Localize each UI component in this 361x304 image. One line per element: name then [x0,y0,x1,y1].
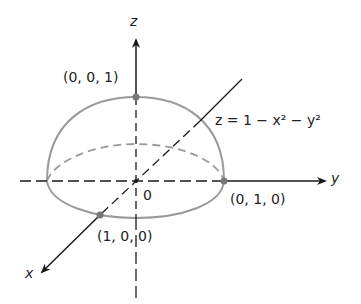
point-apex [133,94,140,101]
x-axis [42,215,100,272]
origin-dot [134,179,138,183]
base-ellipse-front [47,181,224,218]
x-axis-label: x [25,265,33,281]
point-y-label: (0, 1, 0) [230,191,285,207]
point-apex-label: (0, 0, 1) [63,69,118,85]
y-axis-label: y [331,170,339,186]
point-y [221,178,228,185]
point-x [97,212,104,219]
origin-label: 0 [143,187,152,203]
diagram-canvas [0,0,361,304]
point-x-label: (1, 0, 0) [97,228,152,244]
paraboloid-diagram: z y x 0 z = 1 − x² − y² (0, 0, 1) (0, 1,… [0,0,361,304]
equation-label: z = 1 − x² − y² [215,112,321,128]
z-axis-label: z [130,13,137,29]
